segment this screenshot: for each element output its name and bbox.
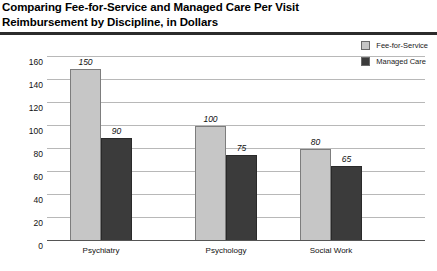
- bar-value-label: 80: [311, 137, 320, 147]
- x-axis-tick-label: Social Work: [310, 246, 353, 255]
- bar-group: 8065: [300, 57, 362, 241]
- bar-value-label: 90: [112, 126, 121, 136]
- bar: 75: [226, 155, 257, 241]
- y-axis-labels: 020406080100120140160: [0, 57, 43, 241]
- bar-value-label: 65: [342, 154, 351, 164]
- bar: 80: [300, 149, 331, 241]
- bar-group: 15090: [70, 57, 132, 241]
- x-axis-labels: PsychiatryPsychologySocial Work: [47, 246, 425, 266]
- bar-value-label: 100: [203, 114, 217, 124]
- chart-page: Comparing Fee-for-Service and Managed Ca…: [0, 0, 437, 271]
- chart-title: Comparing Fee-for-Service and Managed Ca…: [0, 0, 437, 30]
- legend-item-fee-for-service: Fee-for-Service: [361, 41, 428, 50]
- title-line-1: Comparing Fee-for-Service and Managed Ca…: [0, 0, 437, 15]
- plot-area: 15090100758065: [47, 57, 425, 241]
- bar: 65: [331, 166, 362, 241]
- x-axis-tick-label: Psychiatry: [83, 246, 120, 255]
- bar-value-label: 150: [78, 57, 92, 67]
- legend-swatch-icon-fee-for-service: [361, 41, 370, 50]
- bar: 100: [195, 126, 226, 241]
- bar: 90: [101, 138, 132, 242]
- bar: 150: [70, 69, 101, 242]
- title-line-2: Reimbursement by Discipline, in Dollars: [0, 15, 437, 30]
- title-divider: [0, 32, 437, 35]
- x-axis-line: [47, 240, 425, 242]
- x-axis-tick-label: Psychology: [206, 246, 247, 255]
- bar-value-label: 75: [237, 143, 246, 153]
- bar-group: 10075: [195, 57, 257, 241]
- legend-label-fee-for-service: Fee-for-Service: [376, 41, 428, 50]
- bar-groups: 15090100758065: [47, 57, 425, 241]
